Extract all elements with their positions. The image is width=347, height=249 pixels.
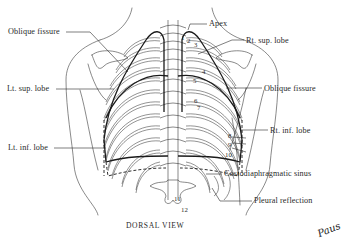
rib-number-9: 9	[228, 142, 231, 149]
neck-outline	[100, 8, 132, 40]
rib-number-11: 11	[174, 196, 181, 203]
dorsal-thorax-diagram	[0, 0, 347, 249]
label-oblique-fissure-left: Oblique fissure	[8, 28, 60, 36]
rib-number-5: 5	[193, 78, 196, 85]
label-oblique-fissure-right: Oblique fissure	[264, 85, 316, 93]
label-rt-inf-lobe: Rt. inf. lobe	[270, 127, 310, 135]
label-apex: Apex	[209, 20, 227, 28]
label-rt-sup-lobe: Rt. sup. lobe	[246, 37, 289, 45]
label-lt-sup-lobe: Lt. sup. lobe	[7, 85, 49, 93]
pleural-reflection-left	[106, 162, 166, 176]
rib-number-12: 12	[181, 207, 188, 214]
lumbar-vertebra	[150, 180, 196, 203]
label-costodiaphragmatic-sinus: Costodiaphragmatic sinus	[224, 170, 311, 178]
rib-number-1: 1	[181, 35, 184, 42]
rib-number-10: 10	[225, 152, 232, 159]
leader-apex	[188, 24, 207, 30]
rib-number-7: 7	[197, 105, 200, 112]
label-pleural-reflection: Pleural reflection	[254, 197, 312, 205]
rib-number-3: 3	[194, 42, 197, 49]
rib-number-4: 4	[202, 69, 205, 76]
rib-number-2: 2	[187, 38, 190, 45]
rib-number-8: 8	[228, 133, 231, 140]
label-lt-inf-lobe: Lt. inf. lobe	[8, 144, 48, 152]
view-caption: DORSAL VIEW	[126, 221, 184, 230]
body-outline-left	[66, 40, 100, 215]
